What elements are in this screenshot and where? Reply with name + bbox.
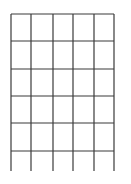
horizontal-grid-lines bbox=[11, 14, 114, 151]
grid-diagram bbox=[0, 0, 131, 184]
vertical-grid-lines bbox=[11, 14, 114, 171]
